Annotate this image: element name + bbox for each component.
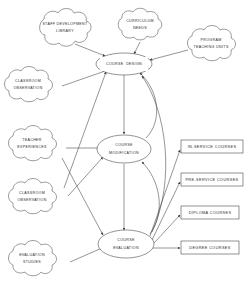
cloud-label-teacher-experiences: TEACHER	[22, 138, 42, 142]
cloud-curriculum-needs[interactable]: CURRICULUM NEEDS	[118, 8, 162, 40]
cloud-label-staff-development-library-line2: LIBRARY	[56, 29, 74, 33]
cloud-label-curriculum-needs-line2: NEEDS	[133, 26, 147, 30]
box-label-in-service-courses: IN-SERVICE COURSES	[188, 145, 237, 149]
node-label-course-design-combined: COURSE DESIGN	[106, 62, 142, 66]
cloud-label-classroom-observation-top: CLASSROOM	[15, 79, 41, 83]
cloud-label-teacher-experiences-line2: EXPERIENCES	[17, 145, 47, 149]
edge-teacher-to-evaluation	[62, 158, 103, 235]
edge-evaluation-to-diploma	[154, 215, 180, 243]
edge-needs-to-design	[134, 42, 140, 54]
box-label-diploma-courses: DIPLOMA COURSES	[189, 211, 232, 215]
cloud-label-program-teaching-units-line2: TEACHING UNITS	[193, 45, 229, 49]
edge-evaluation-to-in-service	[150, 150, 180, 236]
box-pre-service-courses[interactable]: PRE-SERVICE COURSES	[181, 173, 243, 186]
edge-observation-top-to-design	[62, 70, 108, 86]
cloud-classroom-observation-top[interactable]: CLASSROOM OBSERVATION	[5, 67, 53, 102]
cloud-program-teaching-units[interactable]: PROGRAM TEACHING UNITS	[188, 26, 236, 61]
cloud-label-staff-development-library: STAFF DEVELOPMENT	[42, 22, 88, 26]
box-label-degree-courses: DEGREE COURSES	[189, 246, 231, 250]
cloud-staff-development-library[interactable]: STAFF DEVELOPMENT LIBRARY	[40, 9, 91, 47]
output-box-layer: IN-SERVICE COURSES PRE-SERVICE COURSES D…	[181, 140, 243, 254]
edge-modification-to-design	[140, 73, 157, 138]
node-label-course-evaluation-line2: EVALUATION	[113, 246, 139, 250]
node-course-modification[interactable]: COURSE MODIFICATION	[97, 135, 151, 163]
edge-observation-mid-to-design	[64, 72, 106, 188]
cloud-label-classroom-observation-mid: CLASSROOM	[19, 191, 45, 195]
cloud-evaluation-studies[interactable]: EVALUATION STUDIES	[9, 241, 57, 276]
node-label-course-evaluation: COURSE	[117, 238, 135, 242]
box-in-service-courses[interactable]: IN-SERVICE COURSES	[181, 140, 243, 153]
cloud-classroom-observation-mid[interactable]: CLASSROOM OBSERVATION	[9, 179, 57, 214]
node-course-evaluation[interactable]: COURSE EVALUATION	[98, 230, 154, 258]
flow-diagram: STAFF DEVELOPMENT LIBRARY CURRICULUM NEE…	[0, 0, 252, 296]
cloud-label-curriculum-needs: CURRICULUM	[126, 19, 154, 23]
node-course-design-text: COURSE DESIGN	[100, 57, 148, 71]
node-label-course-modification: COURSE	[115, 143, 133, 147]
cloud-label-classroom-observation-mid-line2: OBSERVATION	[17, 198, 46, 202]
node-label-course-modification-line2: MODIFICATION	[109, 151, 139, 155]
cloud-label-evaluation-studies: EVALUATION	[19, 253, 45, 257]
cloud-label-classroom-observation-top-line2: OBSERVATION	[13, 86, 42, 90]
box-label-pre-service-courses: PRE-SERVICE COURSES	[185, 178, 238, 182]
diagram-canvas: STAFF DEVELOPMENT LIBRARY CURRICULUM NEE…	[0, 0, 252, 296]
edge-library-to-design	[75, 44, 105, 56]
box-degree-courses[interactable]: DEGREE COURSES	[181, 241, 239, 254]
cloud-label-program-teaching-units: PROGRAM	[200, 38, 221, 42]
edge-evaluation-studies-to-evaluation	[70, 248, 102, 262]
cloud-label-evaluation-studies-line2: STUDIES	[23, 260, 41, 264]
process-node-layer: COURSE DESIGN COURSE MODIFICATION COURSE…	[96, 53, 154, 258]
edge-units-to-design	[150, 50, 188, 60]
edge-evaluation-to-modification	[142, 162, 159, 234]
box-diploma-courses[interactable]: DIPLOMA COURSES	[181, 206, 239, 219]
cloud-teacher-experiences[interactable]: TEACHER EXPERIENCES	[9, 126, 57, 161]
